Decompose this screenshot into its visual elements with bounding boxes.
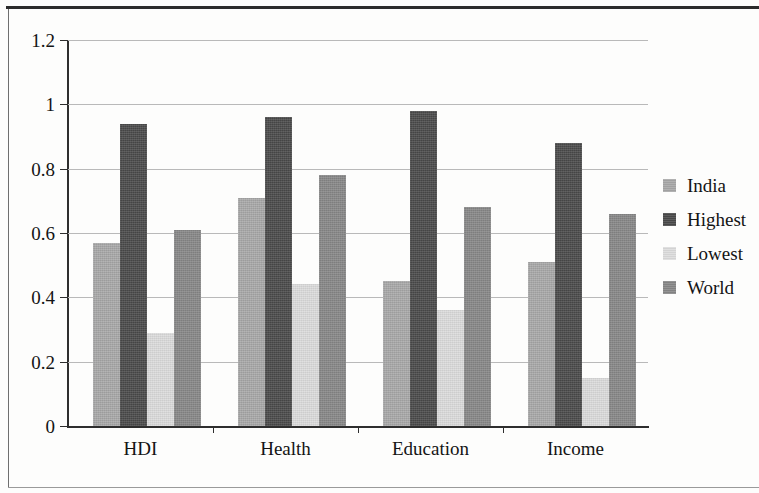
x-axis-tick-label: Income <box>547 439 604 458</box>
page-top-rule <box>6 6 759 9</box>
legend-swatch-icon <box>663 179 676 192</box>
y-axis-tick <box>60 233 68 234</box>
bar-india-income <box>528 262 555 426</box>
bar-world-hdi <box>174 230 201 426</box>
legend-label: Lowest <box>687 244 743 263</box>
y-axis-tick <box>60 104 68 105</box>
bar-lowest-hdi <box>147 333 174 426</box>
bar-chart-figure: 00.20.40.60.811.2 HDIHealthEducationInco… <box>0 0 759 493</box>
bar-highest-health <box>265 117 292 426</box>
bar-india-health <box>238 198 265 426</box>
y-axis-tick-label: 0.4 <box>31 288 55 307</box>
bar-lowest-education <box>437 310 464 426</box>
y-axis-tick-label: 0.2 <box>31 352 55 371</box>
chart-legend: IndiaHighestLowestWorld <box>663 168 746 304</box>
gridline <box>68 40 648 41</box>
bar-world-education <box>464 207 491 426</box>
x-axis-tick-label: Education <box>392 439 469 458</box>
y-axis-tick-label: 0.6 <box>31 224 55 243</box>
legend-label: World <box>687 278 734 297</box>
bar-highest-hdi <box>120 124 147 426</box>
legend-swatch-icon <box>663 281 676 294</box>
bar-highest-income <box>555 143 582 426</box>
bar-india-education <box>383 281 410 426</box>
legend-item-world: World <box>663 270 746 304</box>
legend-swatch-icon <box>663 213 676 226</box>
y-axis-tick-label: 1.2 <box>31 31 55 50</box>
x-axis-tick-label: Health <box>260 439 311 458</box>
bar-lowest-income <box>582 378 609 426</box>
plot-area: 00.20.40.60.811.2 HDIHealthEducationInco… <box>68 40 648 426</box>
y-axis-tick <box>60 40 68 41</box>
bar-world-income <box>609 214 636 426</box>
y-axis-tick-label: 1 <box>46 95 56 114</box>
y-axis-tick <box>60 169 68 170</box>
x-axis-tick <box>358 426 359 433</box>
y-axis-tick <box>60 362 68 363</box>
legend-item-india: India <box>663 168 746 202</box>
gridline <box>68 104 648 105</box>
y-axis-tick-label: 0 <box>46 417 56 436</box>
bar-world-health <box>319 175 346 426</box>
y-axis-tick <box>60 426 68 427</box>
x-axis-tick-label: HDI <box>124 439 158 458</box>
legend-item-highest: Highest <box>663 202 746 236</box>
legend-item-lowest: Lowest <box>663 236 746 270</box>
x-axis-tick <box>213 426 214 433</box>
bar-india-hdi <box>93 243 120 426</box>
legend-swatch-icon <box>663 247 676 260</box>
y-axis-tick-label: 0.8 <box>31 159 55 178</box>
bar-lowest-health <box>292 284 319 426</box>
figure-frame-left <box>8 9 9 487</box>
y-axis-tick <box>60 297 68 298</box>
bar-highest-education <box>410 111 437 426</box>
x-axis-tick <box>503 426 504 433</box>
legend-label: India <box>687 176 726 195</box>
legend-label: Highest <box>687 210 746 229</box>
figure-frame-bottom <box>8 487 759 488</box>
